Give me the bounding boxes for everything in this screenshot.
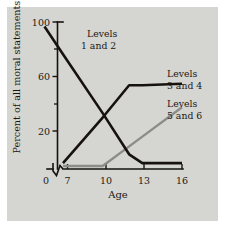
y-ticklabel-20: 20 bbox=[38, 126, 50, 137]
x-ticklabel-7: 7 bbox=[64, 175, 70, 186]
y-ticklabel-100: 100 bbox=[32, 17, 50, 28]
series-label-levels-3-and-4-line1: Levels bbox=[167, 68, 197, 79]
series-label-levels-5-and-6-line1: Levels bbox=[167, 98, 197, 109]
series-label-levels-1-and-2-line2: 1 and 2 bbox=[81, 40, 116, 51]
x-ticklabel-0: 0 bbox=[43, 175, 49, 186]
y-axis-title: Percent of all moral statements bbox=[11, 34, 22, 154]
y-ticklabel-60: 60 bbox=[38, 71, 50, 82]
series-line-levels-5-and-6 bbox=[63, 107, 182, 166]
series-label-levels-3-and-4-line2: 3 and 4 bbox=[167, 80, 202, 91]
x-axis-title: Age bbox=[107, 189, 128, 200]
series-label-levels-1-and-2-line1: Levels bbox=[87, 28, 117, 39]
chart-figure: 100 60 20 0 7 10 13 16 Age Levels 1 and … bbox=[0, 0, 225, 228]
x-ticklabel-16: 16 bbox=[176, 175, 188, 186]
series-label-levels-5-and-6-line2: 5 and 6 bbox=[167, 110, 202, 121]
x-ticklabel-10: 10 bbox=[100, 175, 112, 186]
x-ticklabel-13: 13 bbox=[138, 175, 150, 186]
chart-plot-area: 100 60 20 0 7 10 13 16 Age Levels 1 and … bbox=[0, 0, 225, 228]
